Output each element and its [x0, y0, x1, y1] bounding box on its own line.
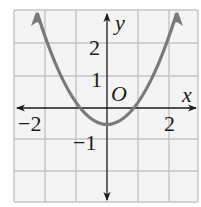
x-tick-neg2: −2	[18, 111, 41, 136]
x-tick-2: 2	[164, 111, 175, 136]
y-tick-2: 2	[89, 35, 100, 60]
origin-label: O	[111, 81, 127, 106]
parabola-graph: y x O 2 1 −1 −2 2	[0, 0, 201, 207]
grid-background	[14, 10, 198, 202]
y-tick-neg1: −1	[73, 130, 96, 155]
y-tick-1: 1	[91, 67, 102, 92]
x-axis-label: x	[181, 82, 192, 107]
y-axis-label: y	[113, 10, 125, 35]
